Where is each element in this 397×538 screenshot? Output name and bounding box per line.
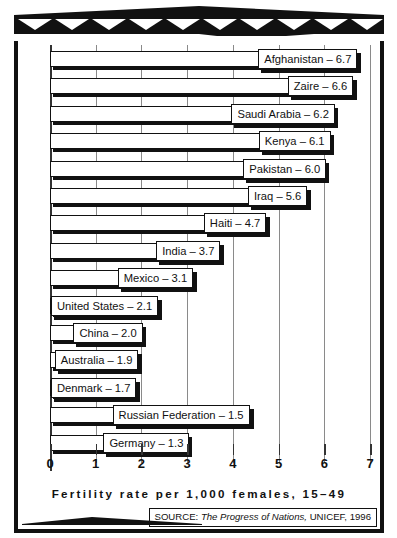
bar-label: Russian Federation – 1.5 (113, 405, 250, 425)
bar-row[interactable]: Saudi Arabia – 6.2 (0, 104, 397, 131)
bar-label: Mexico – 3.1 (118, 268, 193, 288)
bar-label: Australia – 1.9 (55, 350, 139, 370)
x-tick-label-7: 7 (358, 456, 382, 471)
bar-label: China – 2.0 (73, 323, 142, 343)
bar-fill (50, 435, 109, 451)
frame-bottom-rule (14, 529, 384, 533)
x-tick-mark-1 (96, 444, 98, 455)
bar-label: Saudi Arabia – 6.2 (231, 104, 334, 124)
x-tick-mark-3 (187, 444, 189, 455)
bar-row[interactable]: United States – 2.1 (0, 296, 397, 323)
bar-label: Denmark – 1.7 (51, 378, 136, 398)
bar-row[interactable]: Australia – 1.9 (0, 350, 397, 377)
x-tick-mark-4 (233, 444, 235, 455)
x-tick-label-0: 0 (38, 456, 62, 471)
bar-label: United States – 2.1 (51, 296, 158, 316)
bar-row[interactable]: Mexico – 3.1 (0, 268, 397, 295)
bar-fill (50, 407, 119, 423)
x-tick-mark-7 (370, 444, 372, 455)
bar-series: Afghanistan – 6.7Zaire – 6.6Saudi Arabia… (0, 45, 397, 463)
x-axis: 01234567 (0, 456, 397, 486)
bar-row[interactable]: Zaire – 6.6 (0, 76, 397, 103)
bar-row[interactable]: Russian Federation – 1.5 (0, 405, 397, 432)
x-tick-mark-6 (324, 444, 326, 455)
x-tick-label-2: 2 (129, 456, 153, 471)
x-tick-label-5: 5 (267, 456, 291, 471)
x-tick-mark-5 (279, 444, 281, 455)
bar-row[interactable]: India – 3.7 (0, 241, 397, 268)
bar-label: Afghanistan – 6.7 (258, 49, 357, 69)
bar-label: Germany – 1.3 (103, 433, 189, 453)
x-tick-label-3: 3 (175, 456, 199, 471)
source-publisher-text: UNICEF, 1996 (307, 511, 371, 522)
bar-label: India – 3.7 (156, 241, 220, 261)
top-ornament-band (14, 6, 384, 36)
x-tick-label-4: 4 (221, 456, 245, 471)
bar-row[interactable]: Denmark – 1.7 (0, 378, 397, 405)
x-tick-mark-0 (50, 444, 52, 455)
source-publication-title: The Progress of Nations, (201, 511, 307, 522)
x-tick-label-1: 1 (84, 456, 108, 471)
bottom-ornament-swoosh (22, 515, 202, 527)
x-axis-title: Fertility rate per 1,000 females, 15–49 (18, 487, 380, 500)
bar-row[interactable]: Afghanistan – 6.7 (0, 49, 397, 76)
bar-row[interactable]: Pakistan – 6.0 (0, 159, 397, 186)
bar-label: Pakistan – 6.0 (243, 159, 326, 179)
bar-label: Iraq – 5.6 (248, 186, 307, 206)
bar-label: Haiti – 4.7 (204, 213, 266, 233)
bar-label: Kenya – 6.1 (259, 131, 331, 151)
plot-area: Afghanistan – 6.7Zaire – 6.6Saudi Arabia… (0, 45, 397, 463)
bar-row[interactable]: Iraq – 5.6 (0, 186, 397, 213)
bar-row[interactable]: China – 2.0 (0, 323, 397, 350)
x-tick-label-6: 6 (312, 456, 336, 471)
bar-row[interactable]: Haiti – 4.7 (0, 213, 397, 240)
x-tick-mark-2 (141, 444, 143, 455)
bar-label: Zaire – 6.6 (288, 76, 353, 96)
bar-row[interactable]: Kenya – 6.1 (0, 131, 397, 158)
